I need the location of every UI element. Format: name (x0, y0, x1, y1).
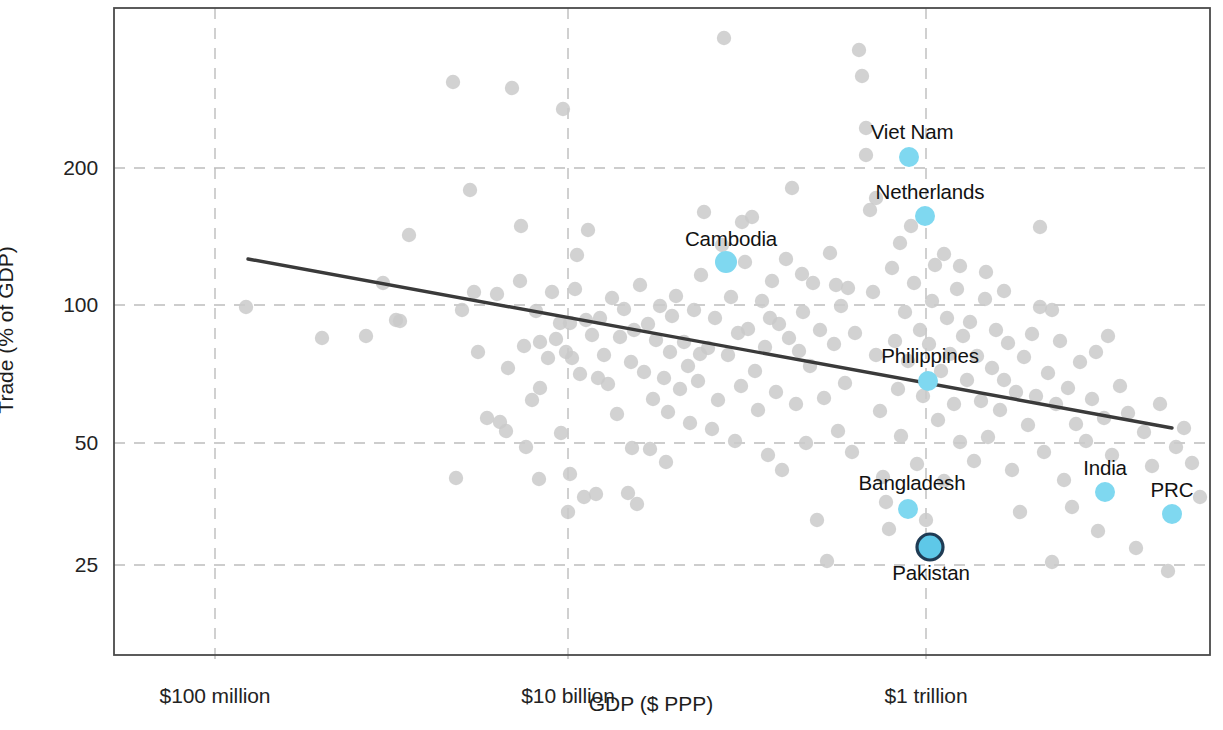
data-point (705, 422, 719, 436)
data-point (697, 205, 711, 219)
data-point (563, 467, 577, 481)
data-point (315, 331, 329, 345)
data-point (963, 315, 977, 329)
data-point (813, 323, 827, 337)
data-point (1073, 355, 1087, 369)
data-point (605, 291, 619, 305)
data-point (873, 404, 887, 418)
data-point (1145, 459, 1159, 473)
data-point (728, 434, 742, 448)
data-point (691, 374, 705, 388)
data-point (624, 355, 638, 369)
data-point (663, 345, 677, 359)
data-point (967, 454, 981, 468)
data-point (471, 345, 485, 359)
data-point (893, 236, 907, 250)
data-point (610, 407, 624, 421)
data-point (669, 289, 683, 303)
data-point (585, 328, 599, 342)
data-point (894, 429, 908, 443)
data-point (775, 463, 789, 477)
data-point (446, 75, 460, 89)
data-point (913, 323, 927, 337)
data-point (925, 294, 939, 308)
data-point (549, 332, 563, 346)
data-point (882, 522, 896, 536)
data-point (556, 102, 570, 116)
data-point (561, 505, 575, 519)
data-point (455, 303, 469, 317)
data-point (1001, 336, 1015, 350)
data-point (501, 361, 515, 375)
data-point (1021, 418, 1035, 432)
data-point (795, 267, 809, 281)
data-point (782, 331, 796, 345)
data-point (519, 440, 533, 454)
data-point (630, 497, 644, 511)
point-label-netherlands: Netherlands (876, 180, 985, 204)
data-point (785, 181, 799, 195)
highlighted-data-point-india[interactable] (1095, 482, 1115, 502)
y-tick-label-200: 200 (40, 156, 98, 180)
data-point (646, 392, 660, 406)
data-point (841, 281, 855, 295)
data-point (997, 373, 1011, 387)
data-point (898, 305, 912, 319)
data-point (517, 339, 531, 353)
data-point (823, 246, 837, 260)
data-point (617, 302, 631, 316)
data-point (665, 309, 679, 323)
data-point (533, 335, 547, 349)
data-point (239, 300, 253, 314)
data-point (591, 371, 605, 385)
data-point (1153, 397, 1167, 411)
data-point (799, 436, 813, 450)
data-point (449, 471, 463, 485)
data-point (1177, 421, 1191, 435)
data-point (755, 294, 769, 308)
data-point (910, 457, 924, 471)
data-point (637, 365, 651, 379)
data-point (947, 397, 961, 411)
data-point (1033, 300, 1047, 314)
data-point (1045, 303, 1059, 317)
x-tick-label-100-million: $100 million (160, 684, 271, 708)
data-point (402, 228, 416, 242)
data-point (741, 322, 755, 336)
data-point (625, 441, 639, 455)
data-point (633, 278, 647, 292)
data-point (565, 351, 579, 365)
data-point (827, 337, 841, 351)
data-point (1089, 345, 1103, 359)
point-label-prc: PRC (1151, 478, 1194, 502)
data-point (1193, 490, 1207, 504)
data-point (687, 303, 701, 317)
data-point (919, 513, 933, 527)
data-point (852, 43, 866, 57)
data-point (845, 445, 859, 459)
highlighted-data-point-pakistan[interactable] (917, 534, 943, 560)
highlighted-data-point-bangladesh[interactable] (898, 499, 918, 519)
data-point (711, 393, 725, 407)
data-point (820, 554, 834, 568)
data-point (641, 317, 655, 331)
highlighted-data-point-netherlands[interactable] (915, 206, 935, 226)
highlighted-data-point-cambodia[interactable] (715, 251, 737, 273)
highlighted-data-point-philippines[interactable] (918, 371, 938, 391)
data-point (499, 424, 513, 438)
data-point (577, 490, 591, 504)
data-point (1013, 505, 1027, 519)
data-point (855, 69, 869, 83)
data-point (597, 348, 611, 362)
data-point (532, 472, 546, 486)
data-point (981, 430, 995, 444)
data-point (359, 329, 373, 343)
data-point (694, 268, 708, 282)
data-point (480, 411, 494, 425)
highlighted-data-point-viet-nam[interactable] (899, 147, 919, 167)
data-point (1129, 541, 1143, 555)
highlighted-data-point-prc[interactable] (1162, 504, 1182, 524)
plot-area (0, 0, 1223, 730)
data-point (570, 248, 584, 262)
data-point (940, 311, 954, 325)
